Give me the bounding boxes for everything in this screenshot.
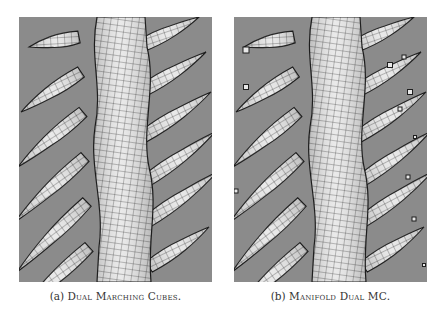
subfigure-a-caption-text: Dual Marching Cubes. xyxy=(67,290,181,302)
floating-fragment xyxy=(423,264,426,267)
floating-fragment xyxy=(402,55,406,59)
floating-fragment xyxy=(398,107,402,111)
trunk-shading xyxy=(309,17,368,282)
mesh-render-b xyxy=(234,17,427,282)
branch xyxy=(145,221,212,272)
floating-fragment xyxy=(406,175,410,179)
subfigure-b-label: (b) xyxy=(271,290,286,302)
subfigure-b-caption: (b) Manifold Dual MC. xyxy=(234,290,427,302)
floating-fragment xyxy=(408,90,413,95)
subfigure-b-image xyxy=(234,17,427,282)
branch xyxy=(360,221,427,272)
subfigure-a-image xyxy=(19,17,212,282)
floating-fragment xyxy=(388,63,393,68)
floating-fragment xyxy=(412,217,416,221)
branch xyxy=(28,30,81,54)
subfigure-b-caption-text: Manifold Dual MC. xyxy=(289,290,390,302)
branch xyxy=(243,30,296,54)
floating-fragment xyxy=(243,47,249,53)
trunk-shading xyxy=(94,17,153,282)
floating-fragment xyxy=(414,136,417,139)
mesh-render-a xyxy=(19,17,212,282)
subfigure-a-caption: (a) Dual Marching Cubes. xyxy=(19,290,212,302)
floating-fragment xyxy=(244,85,249,90)
floating-fragment xyxy=(234,189,238,193)
subfigure-a-label: (a) xyxy=(50,290,64,302)
